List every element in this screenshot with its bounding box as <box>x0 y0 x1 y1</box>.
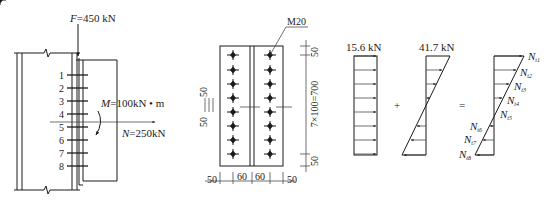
bolt-number: 1 <box>59 70 64 81</box>
plate-outline <box>220 46 283 166</box>
bolt-number: 3 <box>59 96 64 107</box>
bolt-icon <box>0 0 6 5</box>
panel-b-bolt-layout: M20 50 7×100=700 50 50 50 50 60 60 50 <box>0 0 320 185</box>
bolt-spec-label: M20 <box>287 16 306 27</box>
dim-bottom: 50 <box>309 156 320 166</box>
bolt-number: 5 <box>59 122 64 133</box>
dim-left-upper: 50 <box>198 87 209 97</box>
panel-a-elevation: 1 2 3 4 5 6 7 8 F=450 kN M=100kN • m N=2… <box>14 12 166 194</box>
uniform-distribution: 15.6 kN <box>346 41 382 155</box>
bolt-leader <box>270 27 286 55</box>
panel-c-force-diagrams: 15.6 kN + 41.7 kN = <box>346 41 540 161</box>
dim-h-3: 60 <box>255 171 265 182</box>
linear-distribution: 41.7 kN <box>402 41 455 155</box>
bolt-number: 7 <box>59 148 64 159</box>
connection-diagram: 1 2 3 4 5 6 7 8 F=450 kN M=100kN • m N=2… <box>0 0 554 201</box>
dim-h-1: 50 <box>207 174 217 185</box>
moment-arrow-icon <box>96 111 101 135</box>
moment-label: M=100kN • m <box>100 97 165 109</box>
force-label: F=450 kN <box>69 12 116 24</box>
bolt-symbols <box>0 0 6 5</box>
resultant-label: Nt6 <box>469 120 482 133</box>
bolt-number: 4 <box>59 109 64 120</box>
resultant-label: Nt3 <box>513 80 526 93</box>
resultant-distribution: Nt1 Nt2 Nt3 Nt4 Nt5 Nt6 Nt7 Nt8 <box>458 50 540 161</box>
bolt-number: 6 <box>59 135 64 146</box>
bracket-outline <box>76 60 117 181</box>
resultant-label: Nt1 <box>527 50 540 63</box>
dim-h-4: 50 <box>287 174 297 185</box>
plus-sign: + <box>394 99 400 111</box>
linear-force-label: 41.7 kN <box>419 41 455 53</box>
axial-force-label: N=250kN <box>121 127 166 139</box>
dim-left-lower: 50 <box>198 117 209 127</box>
resultant-label: Nt2 <box>519 66 532 79</box>
bolt-number: 8 <box>59 161 64 172</box>
equals-sign: = <box>459 99 465 111</box>
bolt-rows: 1 2 3 4 5 6 7 8 <box>59 70 88 172</box>
resultant-label: Nt8 <box>458 148 471 161</box>
uniform-force-label: 15.6 kN <box>346 41 382 53</box>
break-line-top <box>14 49 80 57</box>
resultant-label: Nt5 <box>499 108 512 121</box>
resultant-label: Nt4 <box>506 94 519 107</box>
resultant-label: Nt7 <box>463 133 477 146</box>
dim-vertical-span: 7×100=700 <box>309 81 320 127</box>
dim-top: 50 <box>309 47 320 57</box>
dim-h-2: 60 <box>237 171 247 182</box>
bolt-number: 2 <box>59 83 64 94</box>
break-line-bottom <box>14 186 80 194</box>
